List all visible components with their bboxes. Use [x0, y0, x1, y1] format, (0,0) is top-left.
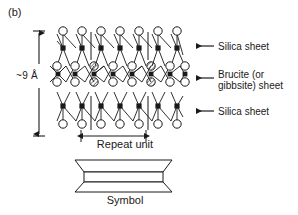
- symbol-core-band: [84, 172, 163, 182]
- repeat-unit-dimension: [81, 130, 146, 142]
- depth-dimension: [33, 31, 45, 136]
- figure-panel-b: (b) ~9 Å Silica sheet Brucite (or gibbsi…: [0, 0, 298, 215]
- symbol-glyph: [75, 160, 172, 192]
- symbol-bottom-plate: [75, 182, 172, 192]
- atoms-open-circles: [53, 27, 189, 128]
- bonds-brucite-sheet: [50, 66, 186, 82]
- lattice-diagram: [0, 0, 298, 215]
- symbol-top-plate: [75, 160, 172, 172]
